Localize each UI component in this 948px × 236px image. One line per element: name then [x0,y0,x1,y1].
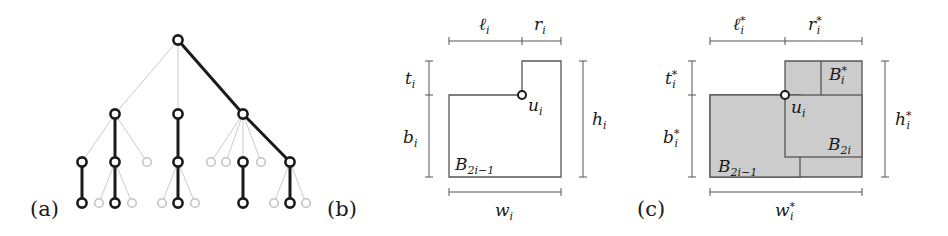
panel-b-label-block-odd: B2i−1 [454,154,494,177]
tree-node-faint [128,199,137,208]
tree-node-faint [191,199,200,208]
panel-c-label-bottom-height: b*i [663,127,680,150]
tree-edge-faint [82,114,115,162]
tree-node-dark [173,109,182,118]
panel-b-left-dimension [425,61,433,177]
tree-node-dark [173,157,182,166]
tree-edge-faint [211,114,243,162]
panel-b-lshape: ℓi ri ti bi hi [327,14,606,223]
tree-edge-faint [115,162,132,203]
panel-b-label-right-width: ri [534,14,546,37]
figure-svg: (a) ℓi ri ti bi [0,0,948,236]
tree-edge-faint [162,162,178,203]
tree-node-faint [207,158,216,167]
tree-edge-faint [274,162,290,203]
tree-node-dark [285,157,294,166]
tree-edge-faint [290,162,306,203]
tree-node-faint [270,199,279,208]
panel-b-label-left-width: ℓi [479,14,490,37]
tree-edge-heavy [178,40,243,114]
panel-c-label-total-width: w*i [775,200,796,223]
panel-b-top-dimension [449,37,561,45]
tree-edge-heavy [243,114,290,162]
panel-c-label-total-height: h*i [895,109,912,132]
panel-b-bottom-dimension [449,188,561,196]
tree-node-dark [238,198,247,207]
panel-c-label-left-width: ℓ*i [733,14,746,37]
tree-edge-faint [226,114,243,162]
panel-c-left-dimension [688,61,696,177]
tree-node-root [173,35,182,44]
panel-b-right-dimension [579,61,587,177]
tree-faint-nodes [95,158,311,208]
panel-c-lshape: ℓ*i r*i t*i b*i h*i [637,14,912,223]
panel-b-label-total-height: hi [592,109,606,132]
tree-edge-faint [115,40,178,114]
tree-node-dark [238,109,247,118]
panel-b-caption: (b) [327,197,357,221]
panel-b-node-ui [518,91,526,99]
tree-edge-faint [178,162,195,203]
panel-a-tree: (a) [30,35,310,221]
tree-node-faint [143,158,152,167]
tree-node-faint [302,199,311,208]
tree-node-dark [110,157,119,166]
panel-c-label-top-height: t*i [665,68,678,91]
tree-edge-faint [115,114,147,162]
panel-c-label-right-width: r*i [808,14,822,37]
panel-c-node-ui [781,91,789,99]
figure-container: (a) ℓi ri ti bi [0,0,948,236]
panel-b-label-top-height: ti [405,68,415,91]
tree-node-dark [173,198,182,207]
tree-heavy-edges [82,40,290,203]
panel-c-right-dimension [881,61,889,177]
tree-node-faint [222,158,231,167]
panel-a-caption: (a) [30,197,59,221]
tree-node-dark [285,198,294,207]
tree-node-dark [238,157,247,166]
tree-node-dark [77,157,86,166]
tree-edge-faint [99,162,115,203]
panel-b-label-node: ui [528,95,542,118]
tree-node-dark [77,198,86,207]
tree-node-faint [158,199,167,208]
tree-node-faint [257,158,266,167]
panel-b-label-bottom-height: bi [403,127,417,150]
tree-node-dark [110,198,119,207]
tree-node-faint [95,199,104,208]
panel-b-label-total-width: wi [495,200,513,223]
tree-node-dark [110,109,119,118]
panel-c-bottom-dimension [710,188,862,196]
panel-c-caption: (c) [637,197,665,221]
panel-c-top-dimension [710,37,862,45]
